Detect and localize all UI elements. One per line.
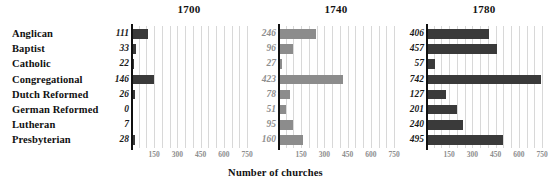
bar-row [426,26,542,41]
bar-row [278,102,394,117]
value-label: 0 [95,102,129,117]
value-label: 240 [390,117,424,132]
panel-title: 1740 [278,3,394,15]
bar [426,90,446,100]
category-label: Catholic [0,56,96,71]
x-tick-label: 450 [195,150,206,159]
category-label: Lutheran [0,117,96,132]
bar-row [131,72,247,87]
bar [131,75,154,85]
value-label: 28 [95,132,129,147]
category-label: Presbyterian [0,132,96,147]
value-label: 51 [242,102,276,117]
x-tick-label: 450 [342,150,353,159]
value-label: 423 [242,72,276,87]
value-label: 246 [242,26,276,41]
category-label-column: AnglicanBaptistCatholicCongregationalDut… [0,26,96,148]
value-label: 27 [242,56,276,71]
bar [278,120,293,130]
plot-area [426,26,542,148]
bar-series [131,26,247,148]
bar-row [426,117,542,132]
church-counts-chart: AnglicanBaptistCatholicCongregationalDut… [0,0,551,185]
bar-row [131,41,247,56]
category-label: Baptist [0,41,96,56]
bar [278,90,290,100]
bar-series [426,26,542,148]
value-label: 96 [242,41,276,56]
bar-row [278,132,394,147]
bar [278,29,316,39]
value-label: 33 [95,41,129,56]
value-label: 146 [95,72,129,87]
bar-row [131,117,247,132]
category-label: Dutch Reformed [0,87,96,102]
x-tick-label: 300 [172,150,183,159]
bar-row [426,87,542,102]
x-tick-label: 300 [467,150,478,159]
x-axis-ticks: 150300450600750 [131,150,247,162]
category-label: Congregational [0,72,96,87]
panel-title: 1780 [426,3,542,15]
value-label: 95 [242,117,276,132]
bar [131,29,148,39]
x-axis-ticks: 150300450600750 [426,150,542,162]
gridline [542,26,543,148]
value-label: 7 [95,117,129,132]
bar [426,29,489,39]
x-tick-label: 150 [444,150,455,159]
value-label: 457 [390,41,424,56]
bar-row [426,132,542,147]
bar [278,135,303,145]
x-tick-label: 300 [319,150,330,159]
y-axis-line [278,24,280,150]
bar-row [131,56,247,71]
bar-row [426,72,542,87]
x-tick-label: 750 [536,150,547,159]
value-label: 201 [390,102,424,117]
x-tick-label: 150 [296,150,307,159]
bar [426,105,457,115]
value-label: 111 [95,26,129,41]
plot-area [131,26,247,148]
bar [426,75,541,85]
bar-row [278,26,394,41]
x-tick-label: 600 [218,150,229,159]
panel-title: 1700 [131,3,247,15]
panel-1740: 17402469627423785195160150300450600750 [278,0,394,165]
bar-row [278,41,394,56]
x-axis-title: Number of churches [0,167,551,178]
plot-area [278,26,394,148]
bar-row [426,56,542,71]
bar [278,44,293,54]
x-tick-label: 150 [149,150,160,159]
bar-row [278,72,394,87]
value-label: 127 [390,87,424,102]
value-label-column: 2469627423785195160 [242,26,276,148]
value-label: 406 [390,26,424,41]
value-label-column: 40645757742127201240495 [390,26,424,148]
bar-row [131,102,247,117]
panel-1780: 1780406457577421272012404951503004506007… [426,0,542,165]
value-label: 22 [95,56,129,71]
y-axis-line [426,24,428,150]
category-label: Anglican [0,26,96,41]
value-label-column: 1113322146260728 [95,26,129,148]
bar [278,75,343,85]
bar-row [131,87,247,102]
bar-row [278,87,394,102]
bar-row [426,102,542,117]
bar-row [278,117,394,132]
value-label: 57 [390,56,424,71]
y-axis-line [131,24,133,150]
value-label: 742 [390,72,424,87]
bar-row [131,26,247,41]
bar [426,135,503,145]
x-axis-ticks: 150300450600750 [278,150,394,162]
panel-1700: 17001113322146260728150300450600750 [131,0,247,165]
bar-series [278,26,394,148]
value-label: 160 [242,132,276,147]
value-label: 26 [95,87,129,102]
value-label: 78 [242,87,276,102]
x-tick-label: 600 [365,150,376,159]
